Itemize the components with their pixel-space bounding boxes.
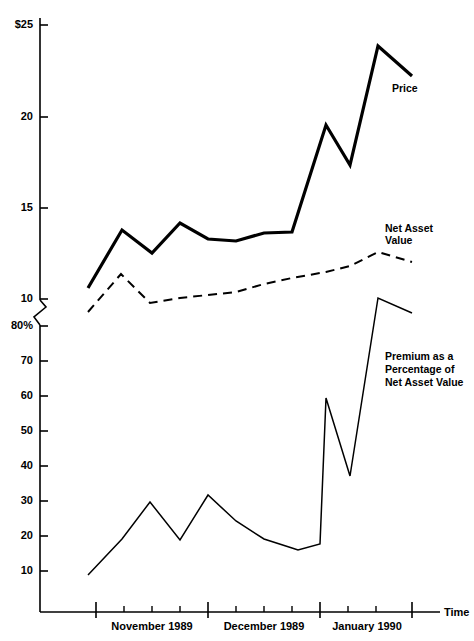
x-axis-caption-time: Time [444,606,469,618]
y-tick-label-50: 50 [0,424,33,436]
series-annotation-price: Price [392,82,418,94]
y-axis-upper-ticks [40,25,48,299]
x-axis-major-ticks [96,602,412,618]
axis-break-zigzag [34,300,46,325]
x-axis-label-january-1990: January 1990 [312,620,422,632]
y-tick-label-80pct: 80% [0,319,33,331]
series-annotation-premium-line1: Premium as a [385,350,453,362]
y-tick-label-60: 60 [0,389,33,401]
x-axis-label-november-1989: November 1989 [92,620,212,632]
series-annotation-net-asset-value-line1: Net Asset [385,222,433,234]
series-annotation-premium-line3: Net Asset Value [385,376,463,388]
series-line-net-asset-value [88,252,412,312]
y-tick-label-20-pct: 20 [0,529,33,541]
y-tick-label-25: $25 [0,18,33,30]
y-tick-label-20: 20 [0,110,33,122]
y-axis-lower-ticks [40,326,48,571]
y-tick-label-10-pct: 10 [0,564,33,576]
chart-container: $25 20 15 10 80% 70 60 50 40 30 20 10 No… [0,0,474,641]
y-tick-label-15: 15 [0,201,33,213]
chart-plot-area [0,0,474,641]
y-tick-label-30: 30 [0,494,33,506]
series-annotation-premium-line2: Percentage of [385,363,454,375]
y-tick-label-70: 70 [0,354,33,366]
x-axis-minor-ticks [124,606,376,612]
series-annotation-net-asset-value-line2: Value [385,234,412,246]
series-line-price [88,46,412,288]
y-tick-label-40: 40 [0,459,33,471]
series-line-premium [88,298,412,575]
x-axis-label-december-1989: December 1989 [204,620,324,632]
y-tick-label-10: 10 [0,292,33,304]
